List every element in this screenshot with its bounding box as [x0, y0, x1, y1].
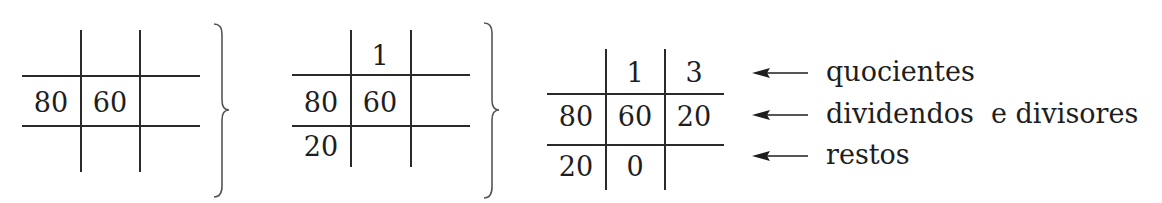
table-cell: 60 [351, 86, 409, 120]
grid-line [22, 75, 200, 77]
right-brace [478, 19, 508, 203]
label-quotients: quocientes [826, 55, 975, 89]
euclid-division-diagram: 80 60 1 80 60 20 1 3 80 60 [0, 0, 1162, 203]
table-cell: 0 [606, 150, 664, 184]
table-cell: 60 [606, 100, 664, 134]
grid-line [547, 144, 724, 146]
table-cell: 20 [547, 150, 605, 184]
arrow-left-icon [750, 108, 812, 122]
right-brace [208, 20, 238, 202]
table-cell: 20 [292, 130, 350, 164]
grid-line [410, 30, 412, 167]
table-cell: 20 [665, 100, 723, 134]
label-dividends-divisors: dividendos e divisores [826, 97, 1138, 131]
grid-line [292, 74, 470, 76]
table-cell: 1 [606, 56, 664, 90]
label-remainders: restos [826, 138, 910, 172]
table-cell: 1 [351, 39, 409, 73]
table-cell: 80 [292, 86, 350, 120]
grid-line [292, 125, 470, 127]
grid-line [547, 93, 724, 95]
arrow-left-icon [750, 66, 812, 80]
table-cell: 80 [22, 86, 80, 120]
grid-line [22, 125, 200, 127]
table-cell: 80 [547, 100, 605, 134]
table-cell: 60 [81, 86, 139, 120]
arrow-left-icon [750, 149, 812, 163]
grid-line [139, 30, 141, 172]
table-cell: 3 [665, 56, 723, 90]
